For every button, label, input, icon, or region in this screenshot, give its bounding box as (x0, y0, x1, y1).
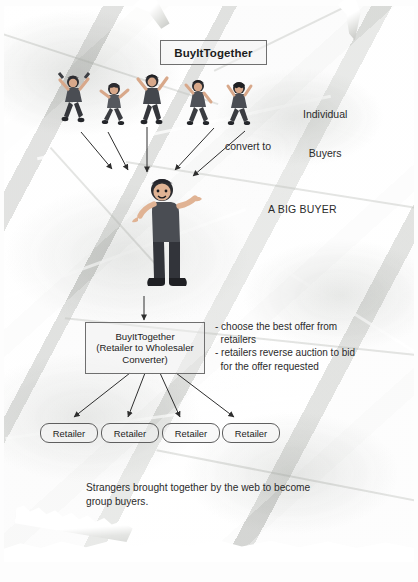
arrow-converter-to-retailer-3 (160, 373, 180, 417)
arrow-converter-to-retailer-4 (176, 373, 234, 417)
buyer-figure-5 (222, 78, 256, 130)
buyer-figure-4 (182, 76, 216, 130)
title-box-label: BuyItTogether (174, 47, 252, 59)
label-a-big-buyer: A BIG BUYER (268, 203, 337, 216)
diagram-layer: BuyItTogether (0, 0, 418, 582)
screenshot-root: BuyItTogether (0, 0, 418, 582)
buyer-figure-2 (98, 80, 132, 130)
bullet-line-2: retailers (215, 333, 405, 346)
big-buyer-figure (128, 170, 210, 296)
buyer-figure-3 (133, 70, 171, 128)
retailer-node-4: Retailer (222, 423, 280, 443)
title-box: BuyItTogether (160, 40, 267, 65)
arrow-buyer-2 (108, 132, 128, 170)
label-individual-buyers: Individual Buyers (303, 82, 347, 186)
bullet-line-1: - choose the best offer from (215, 320, 405, 333)
caption-line-1: Strangers brought together by the web to… (86, 481, 356, 495)
buyer-figure-1 (55, 72, 93, 128)
retailer-node-2-label: Retailer (114, 428, 146, 439)
label-individual-buyers-line1: Individual (303, 108, 347, 121)
label-individual-buyers-line2: Buyers (303, 147, 347, 160)
caption-line-2: group buyers. (86, 495, 356, 509)
converter-box: BuyItTogether (Retailer to Wholesaler Co… (85, 322, 205, 374)
bullet-line-3: - retailers reverse auction to bid (215, 346, 405, 359)
retailer-node-3-label: Retailer (175, 428, 207, 439)
converter-box-line3: Converter) (122, 354, 167, 366)
arrow-converter-to-retailer-1 (74, 373, 130, 417)
retailer-node-4-label: Retailer (235, 428, 267, 439)
converter-box-line2: (Retailer to Wholesaler (96, 342, 194, 354)
bullet-line-4: for the offer requested (215, 360, 405, 373)
retailer-node-1: Retailer (40, 423, 98, 443)
bullet-list: - choose the best offer from retailers -… (215, 320, 405, 373)
retailer-node-3: Retailer (162, 423, 220, 443)
arrow-buyer-4 (175, 128, 214, 170)
retailer-node-1-label: Retailer (53, 428, 85, 439)
arrow-converter-to-retailer-2 (128, 373, 145, 417)
converter-box-line1: BuyItTogether (115, 331, 174, 343)
retailer-node-2: Retailer (101, 423, 159, 443)
caption: Strangers brought together by the web to… (86, 481, 356, 509)
arrow-buyer-1 (81, 132, 112, 169)
label-convert-to: convert to (225, 140, 271, 153)
